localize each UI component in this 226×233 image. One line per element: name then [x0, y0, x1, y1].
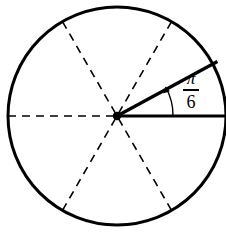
angle-label-denominator: 6: [176, 92, 206, 111]
center-dot: [113, 112, 121, 120]
angle-label: π 6: [176, 70, 206, 111]
fraction-bar: [183, 89, 199, 91]
circle-angle-figure: π 6: [0, 0, 226, 233]
figure-canvas: [0, 0, 226, 233]
angle-label-numerator: π: [176, 70, 206, 88]
